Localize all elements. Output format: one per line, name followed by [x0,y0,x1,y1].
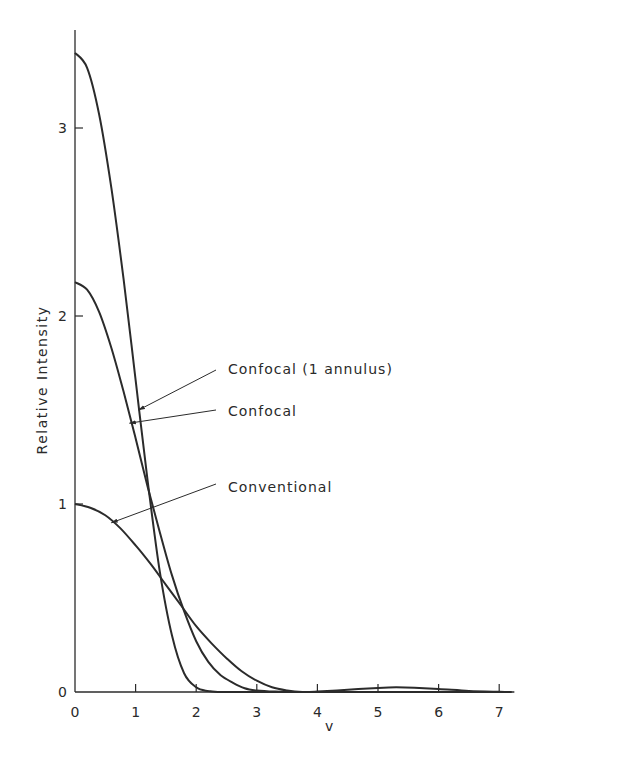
curve-conventional [75,504,511,692]
y-axis-title: Relative Intensity [34,306,50,455]
annotation-confocal: Confocal [228,403,297,419]
annotation-conventional: Conventional [228,479,332,495]
x-tick-label: 5 [374,704,383,720]
relative-intensity-chart: 01234567 0123 v Relative Intensity Confo… [0,0,631,763]
x-tick-label: 0 [71,704,80,720]
annotation-confocal-annulus: Confocal (1 annulus) [228,361,393,377]
annotation-leaders [111,370,216,523]
y-tick-label: 3 [58,120,67,136]
x-tick-label: 3 [252,704,261,720]
x-tick-label: 4 [313,704,322,720]
y-tick-label: 0 [58,684,67,700]
y-tick-label: 2 [58,308,67,324]
x-tick-label: 2 [192,704,201,720]
x-tick-label: 1 [131,704,140,720]
x-tick-label: 7 [495,704,504,720]
leader-confocal-annulus [139,370,216,410]
leader-confocal [130,410,216,423]
y-tick-label: 1 [58,496,67,512]
x-tick-label: 6 [434,704,443,720]
leader-conventional [111,484,216,523]
x-axis-title: v [325,718,335,734]
y-axis-ticks: 0123 [58,120,83,700]
